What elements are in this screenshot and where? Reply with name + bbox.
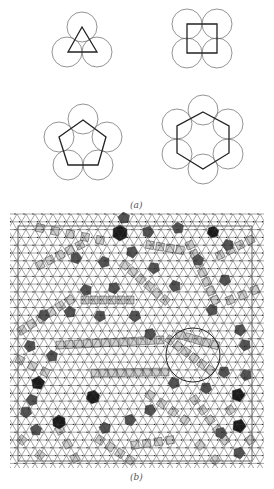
lattice-vertex xyxy=(41,307,42,308)
lattice-vertex xyxy=(140,447,141,448)
lattice-vertex xyxy=(140,260,141,261)
lattice-vertex xyxy=(127,299,128,300)
lattice-vertex xyxy=(199,283,200,284)
lattice-vertex xyxy=(217,471,218,472)
lattice-vertex xyxy=(199,471,200,472)
lattice-vertex xyxy=(59,400,60,401)
lattice-vertex xyxy=(244,237,245,238)
lattice-vertex xyxy=(244,471,245,472)
lattice-vertex xyxy=(59,307,60,308)
lattice-vertex xyxy=(100,252,101,253)
lattice-vertex xyxy=(131,400,132,401)
lattice-vertex xyxy=(163,299,164,300)
lattice-vertex xyxy=(64,315,65,316)
lattice-vertex xyxy=(190,408,191,409)
lattice-vertex xyxy=(190,252,191,253)
lattice-vertex xyxy=(262,377,263,378)
square-motif xyxy=(172,9,232,68)
lattice-vertex xyxy=(23,369,24,370)
lattice-vertex xyxy=(19,221,20,222)
lattice-vertex xyxy=(82,393,83,394)
lattice-vertex xyxy=(86,229,87,230)
lattice-vertex xyxy=(86,447,87,448)
lattice-vertex xyxy=(73,408,74,409)
lattice-vertex xyxy=(5,400,6,401)
lattice-vertex xyxy=(136,299,137,300)
lattice-vertex xyxy=(131,463,132,464)
lattice-vertex xyxy=(149,463,150,464)
lattice-vertex xyxy=(59,213,60,214)
lattice-vertex xyxy=(208,439,209,440)
lattice-vertex xyxy=(145,268,146,269)
lattice-vertex xyxy=(104,307,105,308)
square-tile xyxy=(136,274,147,285)
lattice-vertex xyxy=(14,369,15,370)
lattice-vertex xyxy=(109,268,110,269)
lattice-vertex xyxy=(91,393,92,394)
lattice-vertex xyxy=(163,424,164,425)
lattice-vertex xyxy=(104,229,105,230)
lattice-vertex xyxy=(100,424,101,425)
lattice-vertex xyxy=(253,424,254,425)
lattice-vertex xyxy=(208,299,209,300)
lattice-vertex xyxy=(136,361,137,362)
lattice-vertex xyxy=(181,346,182,347)
lattice-vertex xyxy=(91,315,92,316)
lattice-vertex xyxy=(59,229,60,230)
lattice-vertex xyxy=(190,393,191,394)
lattice-vertex xyxy=(194,447,195,448)
lattice-vertex xyxy=(208,268,209,269)
lattice-vertex xyxy=(86,338,87,339)
lattice-vertex xyxy=(23,385,24,386)
lattice-vertex xyxy=(37,346,38,347)
lattice-vertex xyxy=(145,361,146,362)
lattice-vertex xyxy=(235,237,236,238)
lattice-vertex xyxy=(14,276,15,277)
lattice-vertex xyxy=(221,338,222,339)
lattice-vertex xyxy=(41,260,42,261)
lattice-vertex xyxy=(244,346,245,347)
lattice-vertex xyxy=(32,260,33,261)
lattice-vertex xyxy=(28,439,29,440)
lattice-vertex xyxy=(257,322,258,323)
lattice-vertex xyxy=(221,276,222,277)
lattice-vertex xyxy=(167,369,168,370)
lattice-vertex xyxy=(127,439,128,440)
lattice-vertex xyxy=(185,322,186,323)
lattice-vertex xyxy=(212,276,213,277)
lattice-vertex xyxy=(77,322,78,323)
lattice-vertex xyxy=(5,307,6,308)
lattice-vertex xyxy=(149,354,150,355)
lattice-vertex xyxy=(28,346,29,347)
lattice-vertex xyxy=(181,424,182,425)
lattice-vertex xyxy=(226,455,227,456)
lattice-vertex xyxy=(86,260,87,261)
lattice-vertex xyxy=(172,455,173,456)
lattice-vertex xyxy=(50,322,51,323)
lattice-vertex xyxy=(131,416,132,417)
lattice-vertex xyxy=(28,455,29,456)
lattice-vertex xyxy=(248,307,249,308)
lattice-vertex xyxy=(239,322,240,323)
lattice-vertex xyxy=(19,439,20,440)
lattice-vertex xyxy=(226,299,227,300)
lattice-vertex xyxy=(230,229,231,230)
lattice-vertex xyxy=(122,322,123,323)
lattice-vertex xyxy=(154,237,155,238)
lattice-vertex xyxy=(262,471,263,472)
lattice-vertex xyxy=(217,315,218,316)
lattice-vertex xyxy=(113,322,114,323)
lattice-vertex xyxy=(118,408,119,409)
lattice-vertex xyxy=(68,229,69,230)
lattice-vertex xyxy=(172,252,173,253)
lattice-vertex xyxy=(5,322,6,323)
lattice-vertex xyxy=(77,432,78,433)
lattice-vertex xyxy=(181,299,182,300)
lattice-vertex xyxy=(203,385,204,386)
lattice-vertex xyxy=(163,361,164,362)
lattice-vertex xyxy=(208,408,209,409)
lattice-vertex xyxy=(95,416,96,417)
lattice-vertex xyxy=(91,283,92,284)
lattice-vertex xyxy=(149,260,150,261)
polygon-outline xyxy=(59,120,106,165)
